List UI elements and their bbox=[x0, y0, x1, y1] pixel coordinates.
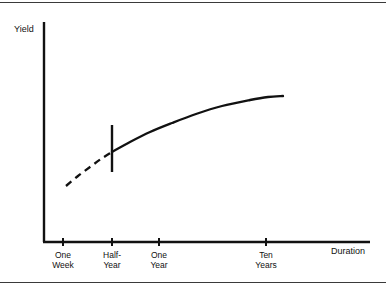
x-axis-title: Duration bbox=[331, 246, 365, 256]
y-axis-title: Yield bbox=[14, 24, 34, 34]
axes-group bbox=[43, 22, 370, 242]
x-tick-label-2: One Year bbox=[132, 250, 186, 270]
x-tick-label-3: Ten Years bbox=[239, 250, 293, 270]
x-tick-label-1: Half- Year bbox=[85, 250, 139, 270]
chart-screenshot: Yield Duration One WeekHalf- YearOne Yea… bbox=[0, 0, 386, 294]
x-tick-label-0: One Week bbox=[36, 250, 90, 270]
yield-curve-solid-segment bbox=[112, 96, 283, 152]
yield-curve-dashed-segment bbox=[66, 152, 112, 186]
